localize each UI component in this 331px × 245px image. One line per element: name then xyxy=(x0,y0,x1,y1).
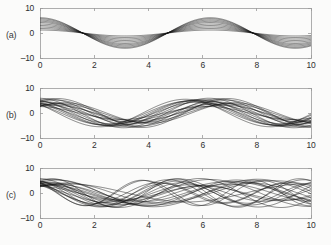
x-axis-tick-label: 6 xyxy=(195,60,211,70)
figure-container: (a) –100100246810 (b) –100100246810 (c) … xyxy=(0,0,331,245)
x-axis-tick-label: 0 xyxy=(32,140,48,150)
y-axis-tick-label: 10 xyxy=(25,3,37,13)
curve-group xyxy=(40,98,311,128)
x-axis-tick-label: 10 xyxy=(303,220,319,230)
panel-a: (a) –100100246810 xyxy=(0,0,331,80)
curve-group xyxy=(40,179,311,208)
panel-c: (c) –100100246810 xyxy=(0,160,331,245)
x-axis-tick-label: 2 xyxy=(86,140,102,150)
x-axis-tick-label: 10 xyxy=(303,140,319,150)
x-axis-tick-label: 8 xyxy=(249,140,265,150)
plot-canvas xyxy=(0,0,331,80)
x-axis-tick-label: 8 xyxy=(249,220,265,230)
x-axis-tick-label: 6 xyxy=(195,140,211,150)
y-axis-tick-label: 10 xyxy=(25,83,37,93)
x-axis-tick-label: 2 xyxy=(86,220,102,230)
curve-group xyxy=(40,18,311,49)
x-axis-tick-label: 4 xyxy=(140,140,156,150)
y-axis-tick-label: 10 xyxy=(25,163,37,173)
x-axis-tick-label: 0 xyxy=(32,60,48,70)
x-axis-tick-label: 10 xyxy=(303,60,319,70)
x-axis-tick-label: 4 xyxy=(140,220,156,230)
y-axis-tick-label: 0 xyxy=(30,188,37,198)
x-axis-tick-label: 0 xyxy=(32,220,48,230)
x-axis-tick-label: 2 xyxy=(86,60,102,70)
x-axis-tick-label: 8 xyxy=(249,60,265,70)
panel-b: (b) –100100246810 xyxy=(0,80,331,160)
plot-canvas xyxy=(0,160,331,245)
x-axis-tick-label: 6 xyxy=(195,220,211,230)
x-axis-tick-label: 4 xyxy=(140,60,156,70)
y-axis-tick-label: 0 xyxy=(30,108,37,118)
y-axis-tick-label: 0 xyxy=(30,28,37,38)
plot-canvas xyxy=(0,80,331,160)
